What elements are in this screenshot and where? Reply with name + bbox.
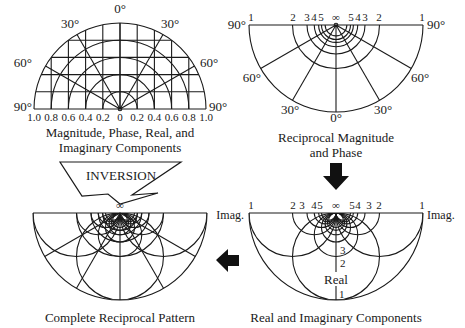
phase-line bbox=[120, 35, 163, 109]
phase-line bbox=[45, 213, 120, 257]
phase-line bbox=[120, 213, 164, 288]
tick-4-left: 4 bbox=[311, 11, 317, 23]
angle-label-30-right: 30° bbox=[374, 102, 392, 117]
angle-label-60-left: 60° bbox=[243, 70, 261, 85]
tick-1-left: 1 bbox=[248, 199, 254, 211]
tick-1-right: 1 bbox=[419, 11, 425, 23]
tick-3-right: 3 bbox=[366, 199, 372, 211]
tick-5-left: 5 bbox=[318, 11, 324, 23]
angle-label-0: 0° bbox=[114, 1, 126, 16]
tick-3-left: 3 bbox=[299, 199, 305, 211]
tick-2-right: 2 bbox=[376, 199, 382, 211]
tick-2-left: 2 bbox=[290, 199, 296, 211]
angle-label-60-right: 60° bbox=[200, 55, 218, 70]
axis-tick-label: 0.6 bbox=[165, 111, 179, 123]
axis-tick-label: 0.4 bbox=[148, 111, 162, 123]
axis-tick-label: 0.6 bbox=[62, 111, 76, 123]
angle-label-90-right: 90° bbox=[427, 17, 445, 32]
angle-label-30-right: 30° bbox=[161, 16, 179, 31]
phase-line bbox=[77, 213, 121, 288]
inversion-label: INVERSION bbox=[86, 168, 157, 183]
phase-line bbox=[77, 35, 120, 109]
tick-5-left: 5 bbox=[317, 199, 323, 211]
tick-3-left: 3 bbox=[304, 11, 310, 23]
real-tick-3: 3 bbox=[340, 244, 346, 256]
caption-and-phase: and Phase bbox=[310, 145, 363, 160]
phase-line bbox=[120, 66, 194, 109]
reciprocal-magnitude-phase-chart bbox=[249, 23, 423, 112]
real-axis-label: Real bbox=[324, 272, 348, 287]
tick-4-right: 4 bbox=[355, 11, 361, 23]
tick-1-left: 1 bbox=[248, 11, 254, 23]
caption-real-imaginary-components: Real and Imaginary Components bbox=[250, 310, 422, 325]
caption-complete-reciprocal-pattern: Complete Reciprocal Pattern bbox=[45, 310, 196, 325]
angle-label-30-left: 30° bbox=[61, 16, 79, 31]
infinity-label: ∞ bbox=[332, 199, 340, 211]
tick-4-right: 4 bbox=[355, 199, 361, 211]
axis-tick-label: 0.2 bbox=[96, 111, 110, 123]
complete-reciprocal-pattern-chart bbox=[33, 170, 207, 301]
infinity-label: ∞ bbox=[332, 11, 340, 23]
phase-line bbox=[261, 25, 336, 69]
imag-axis-label-left: Imag. bbox=[216, 208, 244, 222]
left-arrow-icon bbox=[216, 249, 239, 272]
tick-2-left: 2 bbox=[290, 11, 296, 23]
real-tick-2: 2 bbox=[340, 257, 346, 269]
axis-tick-label: 0.4 bbox=[79, 111, 93, 123]
axis-tick-label: 0.8 bbox=[182, 111, 196, 123]
axis-tick-label: 1.0 bbox=[27, 111, 41, 123]
real-tick-1: 1 bbox=[339, 288, 345, 300]
angle-label-90-left: 90° bbox=[228, 17, 246, 32]
angle-label-60-left: 60° bbox=[14, 55, 32, 70]
polar-grid-chart bbox=[34, 23, 206, 111]
phase-line bbox=[336, 25, 380, 100]
angle-label-60-right: 60° bbox=[411, 70, 429, 85]
axis-tick-labels: 1.00.80.60.40.200.20.40.60.81.0 bbox=[27, 111, 213, 123]
angle-label-30-left: 30° bbox=[281, 102, 299, 117]
tick-3-right: 3 bbox=[362, 11, 368, 23]
tick-2-right: 2 bbox=[376, 11, 382, 23]
phase-line bbox=[336, 25, 411, 69]
axis-tick-label: 0.8 bbox=[44, 111, 58, 123]
phase-line bbox=[46, 66, 120, 109]
caption-reciprocal-magnitude: Reciprocal Magnitude bbox=[278, 130, 394, 145]
axis-tick-label: 1.0 bbox=[199, 111, 213, 123]
down-arrow-icon bbox=[323, 163, 349, 190]
infinity-label: ∞ bbox=[116, 199, 124, 211]
imag-axis-label-right: Imag. bbox=[427, 208, 455, 222]
phase-line bbox=[293, 25, 337, 100]
tick-5-right: 5 bbox=[348, 11, 354, 23]
inversion-diagram: 0° 30° 30° 60° 60° 90° 90° 1.00.80.60.40… bbox=[0, 0, 465, 328]
caption-imaginary-components: Imaginary Components bbox=[59, 140, 181, 155]
axis-tick-label: 0 bbox=[117, 111, 123, 123]
phase-line bbox=[120, 213, 195, 257]
angle-label-0: 0° bbox=[330, 110, 342, 125]
tick-1-right: 1 bbox=[419, 199, 425, 211]
caption-magnitude-phase: Magnitude, Phase, Real, and bbox=[46, 125, 195, 140]
axis-tick-label: 0.2 bbox=[130, 111, 144, 123]
